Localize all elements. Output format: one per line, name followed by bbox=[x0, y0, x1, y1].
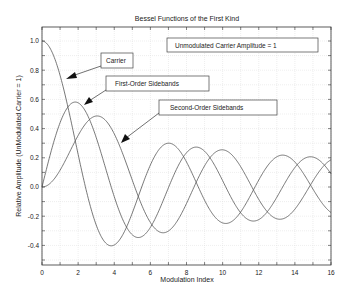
svg-text:First-Order Sidebands: First-Order Sidebands bbox=[115, 80, 180, 87]
bessel-chart: 0246810121416-0.4-0.20.00.20.40.60.81.0 … bbox=[0, 0, 353, 290]
annotation-second-order: Second-Order Sidebands bbox=[121, 100, 277, 143]
x-tick-label: 10 bbox=[219, 269, 227, 276]
svg-text:Second-Order Sidebands: Second-Order Sidebands bbox=[170, 104, 244, 111]
x-tick-label: 16 bbox=[327, 269, 335, 276]
y-tick-label: -0.4 bbox=[28, 242, 40, 249]
y-tick-label: 0.0 bbox=[30, 183, 39, 190]
x-tick-label: 8 bbox=[185, 269, 189, 276]
annotation-carrier: Carrier bbox=[66, 53, 133, 79]
x-tick-label: 12 bbox=[255, 269, 263, 276]
y-tick-label: 0.8 bbox=[30, 67, 39, 74]
x-axis-label: Modulation Index bbox=[160, 276, 214, 283]
axis-ticks: 0246810121416-0.4-0.20.00.20.40.60.81.0 bbox=[28, 27, 335, 276]
x-tick-label: 0 bbox=[40, 269, 44, 276]
y-tick-label: 0.6 bbox=[30, 96, 39, 103]
x-tick-label: 6 bbox=[149, 269, 153, 276]
y-tick-label: 1.0 bbox=[30, 37, 39, 44]
svg-text:Unmodulated Carrier Amplitude: Unmodulated Carrier Amplitude = 1 bbox=[175, 42, 277, 50]
y-axis-label: Relative Amplitude (UnModulated Carrier … bbox=[15, 75, 23, 216]
y-tick-label: -0.2 bbox=[28, 213, 40, 220]
x-tick-label: 2 bbox=[76, 269, 80, 276]
x-tick-label: 14 bbox=[291, 269, 299, 276]
arrow-head-icon bbox=[84, 97, 93, 105]
arrow-head-icon bbox=[121, 134, 130, 143]
svg-text:Carrier: Carrier bbox=[106, 57, 127, 64]
chart-title: Bessel Functions of the First Kind bbox=[135, 15, 239, 22]
y-tick-label: 0.2 bbox=[30, 154, 39, 161]
arrow-head-icon bbox=[66, 72, 77, 79]
x-tick-label: 4 bbox=[112, 269, 116, 276]
grid-lines bbox=[42, 27, 331, 265]
annotation-unmodulated-carrier: Unmodulated Carrier Amplitude = 1 bbox=[167, 38, 318, 52]
y-tick-label: 0.4 bbox=[30, 125, 39, 132]
